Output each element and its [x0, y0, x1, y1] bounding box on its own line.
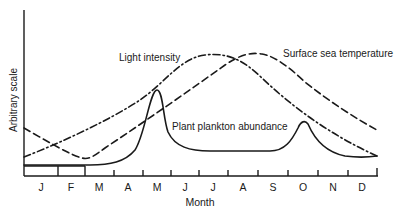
- tick-label-nov: N: [329, 181, 337, 193]
- tick-label-dec: D: [358, 181, 366, 193]
- tick-label-jun: J: [182, 181, 187, 193]
- tick-label-sep: S: [269, 181, 276, 193]
- x-axis-tick-labels: J F M A M J J A S O N D: [38, 181, 366, 193]
- annotation-surface-sea-temperature: Surface sea temperature: [283, 48, 393, 59]
- x-axis-ticks: [58, 166, 377, 176]
- annotation-light-intensity: Light intensity: [119, 52, 180, 63]
- series-light-intensity: [24, 54, 377, 157]
- tick-label-oct: O: [299, 181, 307, 193]
- tick-label-apr: A: [124, 181, 131, 193]
- annotation-plant-plankton-abundance: Plant plankton abundance: [172, 121, 288, 132]
- tick-label-mar: M: [95, 181, 104, 193]
- x-axis-title: Month: [185, 196, 214, 208]
- tick-label-jul: J: [210, 181, 215, 193]
- series-surface-sea-temperature: [24, 53, 377, 158]
- tick-label-feb: F: [68, 181, 74, 193]
- y-axis-title: Arbitrary scale: [8, 68, 19, 132]
- tick-label-aug: A: [239, 181, 246, 193]
- tick-label-jan: J: [38, 181, 43, 193]
- seasonal-cycle-chart: J F M A M J J A S O N D Month Arbitrary …: [0, 0, 397, 209]
- tick-label-may: M: [153, 181, 162, 193]
